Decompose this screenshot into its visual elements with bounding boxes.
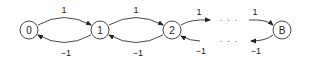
edge-label: 1 xyxy=(196,7,201,17)
edge-label: −1 xyxy=(251,46,261,56)
edge-1-to-0: −1 xyxy=(38,35,91,58)
ellipsis-top: · · · xyxy=(220,15,239,25)
edge-ellipsis-to-2: −1 xyxy=(181,36,206,56)
edge-label: −1 xyxy=(61,48,71,58)
node-label: B xyxy=(279,25,286,36)
node-label: 2 xyxy=(169,25,175,36)
node-0: 0 xyxy=(20,21,38,39)
node-label: 0 xyxy=(26,25,32,36)
node-1: 1 xyxy=(91,21,109,39)
edge-label: −1 xyxy=(133,48,143,58)
edge-label: −1 xyxy=(196,46,206,56)
edge-label: 1 xyxy=(133,5,138,15)
edge-label: 1 xyxy=(252,7,257,17)
edge-B-to-ellipsis: −1 xyxy=(251,35,273,56)
edge-2-to-1: −1 xyxy=(109,35,163,58)
markov-chain-diagram: 1 1 1 1 −1 −1 −1 −1 · · · · · · 0 1 xyxy=(0,0,309,60)
edge-1-to-2: 1 xyxy=(109,5,163,25)
edge-2-to-ellipsis: 1 xyxy=(181,7,210,25)
edge-0-to-1: 1 xyxy=(38,5,91,25)
node-2: 2 xyxy=(163,21,181,39)
edge-ellipsis-to-B: 1 xyxy=(249,7,273,25)
edge-label: 1 xyxy=(61,5,66,15)
node-B: B xyxy=(273,21,291,39)
node-label: 1 xyxy=(97,25,103,36)
ellipsis-bottom: · · · xyxy=(220,36,239,46)
